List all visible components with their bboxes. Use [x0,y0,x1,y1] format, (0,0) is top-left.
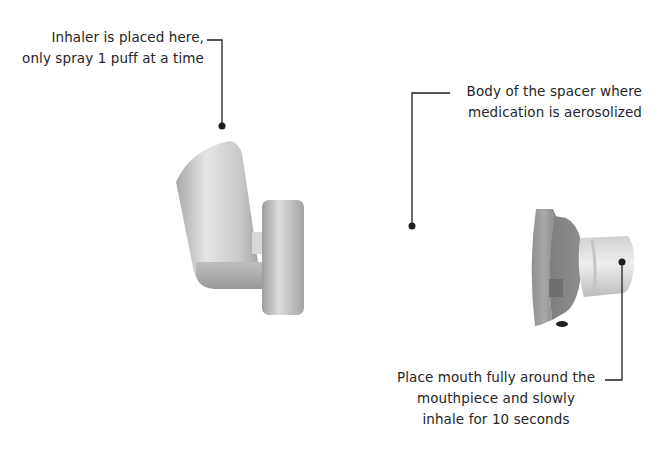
callout-mouthpiece-line-1: Place mouth fully around the [390,367,602,388]
callout-spacer-body-line-1: Body of the spacer where [467,81,642,102]
leader-spacer-body [412,93,450,226]
mouthpiece-end-cap [532,209,582,327]
leader-inhaler-port [207,40,222,126]
anchor-dot-spacer-body [409,223,416,230]
mouthpiece [579,236,635,297]
inhaler-adapter-ring [262,200,304,315]
callout-spacer-body-line-2: medication is aerosolized [467,102,642,123]
callout-mouthpiece-line-3: inhale for 10 seconds [390,409,602,430]
anchor-dot-mouthpiece [619,259,626,266]
callout-inhaler-port-line-2: only spray 1 puff at a time [22,48,204,69]
inhaler-housing [176,141,262,289]
callout-inhaler-port: Inhaler is placed here, only spray 1 puf… [22,27,204,69]
callout-mouthpiece-line-2: mouthpiece and slowly [390,388,602,409]
anchor-dot-inhaler-port [219,123,226,130]
callout-mouthpiece: Place mouth fully around the mouthpiece … [390,367,602,430]
callout-spacer-body: Body of the spacer where medication is a… [467,81,642,123]
callout-inhaler-port-line-1: Inhaler is placed here, [22,27,204,48]
